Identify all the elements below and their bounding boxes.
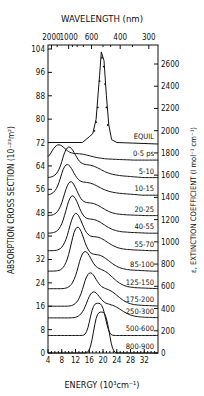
svg-text:56: 56 (36, 185, 46, 194)
svg-text:72: 72 (36, 139, 45, 148)
series-label: 800-900 (126, 342, 154, 351)
svg-text:600: 600 (161, 282, 175, 291)
svg-text:2000: 2000 (161, 127, 180, 136)
x-axis-title: ENERGY (10³cm⁻¹) (65, 380, 140, 390)
top-axis-title: WAVELENGTH (nm) (61, 13, 143, 24)
svg-text:200: 200 (161, 327, 175, 336)
series-label: 20-25 (134, 205, 154, 214)
svg-text:0: 0 (161, 349, 166, 358)
svg-text:1200: 1200 (161, 216, 180, 225)
svg-text:96: 96 (36, 68, 46, 77)
series-label: 0-5 ps (133, 149, 154, 158)
svg-text:104: 104 (31, 45, 45, 54)
series-labels: EQUIL0-5 ps5-1010-1520-2540-5555-7085-10… (126, 132, 155, 351)
svg-text:16: 16 (85, 356, 95, 365)
svg-text:28: 28 (126, 356, 136, 365)
svg-text:2400: 2400 (161, 82, 180, 91)
series-label: 175-200 (126, 295, 154, 304)
series-label: 85-100 (130, 260, 154, 269)
series-label: 55-70 (134, 240, 154, 249)
svg-text:8: 8 (40, 326, 45, 335)
svg-text:2000: 2000 (42, 33, 61, 42)
svg-text:800: 800 (161, 260, 175, 269)
svg-text:300: 300 (142, 33, 156, 42)
svg-text:4: 4 (46, 356, 51, 365)
svg-text:88: 88 (36, 92, 46, 101)
series-label: EQUIL (134, 132, 155, 141)
top-axis-ticks: 20001000600400300 (42, 33, 156, 49)
svg-text:2600: 2600 (161, 60, 180, 69)
svg-text:1600: 1600 (161, 171, 180, 180)
bottom-axis-ticks: 48121620242832 (46, 349, 155, 365)
svg-text:8: 8 (59, 356, 64, 365)
svg-text:24: 24 (112, 356, 122, 365)
svg-text:12: 12 (71, 356, 80, 365)
svg-text:64: 64 (36, 162, 46, 171)
svg-text:80: 80 (36, 115, 46, 124)
svg-text:32: 32 (36, 255, 45, 264)
svg-text:1000: 1000 (161, 238, 180, 247)
svg-text:400: 400 (113, 33, 127, 42)
chart: WAVELENGTH (nm) 20001000600400300 081624… (0, 0, 204, 396)
series-label: 5-10 (139, 167, 154, 176)
svg-text:20: 20 (98, 356, 108, 365)
svg-text:400: 400 (161, 305, 175, 314)
y-axis-title: ABSORPTION CROSS SECTION (10⁻²³m²) (6, 126, 16, 274)
series-label: 250-300 (126, 307, 154, 316)
svg-text:16: 16 (36, 302, 46, 311)
y2-axis-title: ε, EXTINCTION COEFFICIENT (l mol⁻¹ cm⁻¹) (189, 127, 198, 273)
svg-text:2200: 2200 (161, 104, 180, 113)
svg-text:32: 32 (140, 356, 149, 365)
series-label: 10-15 (134, 184, 154, 193)
svg-text:48: 48 (36, 209, 46, 218)
series-label: 500-600 (126, 324, 154, 333)
series-label: 125-150 (126, 278, 154, 287)
svg-text:24: 24 (36, 279, 46, 288)
svg-text:0: 0 (40, 349, 45, 358)
svg-text:40: 40 (36, 232, 46, 241)
svg-text:1800: 1800 (161, 149, 180, 158)
series-label: 40-55 (134, 222, 154, 231)
svg-text:600: 600 (85, 33, 99, 42)
curve-EQUIL (48, 52, 158, 144)
svg-text:1000: 1000 (59, 33, 78, 42)
svg-text:1400: 1400 (161, 193, 180, 202)
left-axis-ticks: 081624324048566472808896104 (31, 45, 52, 358)
